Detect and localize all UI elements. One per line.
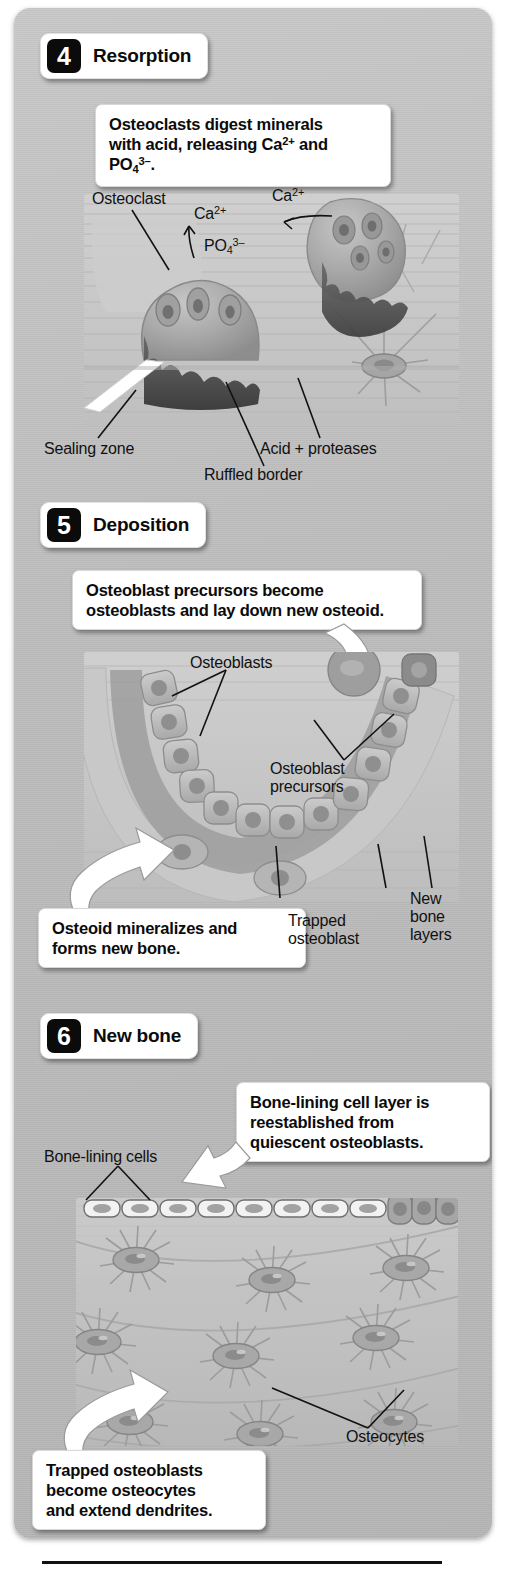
step-header-4: 4 Resorption	[40, 33, 208, 79]
label-calcium-right: Ca2+	[272, 186, 304, 205]
callout-osteoid-line2: forms new bone.	[52, 938, 292, 958]
label-phosphate: PO43–	[204, 236, 244, 256]
callout-trapped-line1: Trapped osteoblasts	[46, 1460, 252, 1480]
illustration-new-bone	[76, 1198, 458, 1446]
callout-osteoid-mineralizes: Osteoid mineralizes and forms new bone.	[38, 908, 306, 968]
step-title-5: Deposition	[93, 514, 189, 536]
label-osteoblast-precursors: Osteoblast precursors	[270, 760, 380, 796]
illustration-resorption	[84, 194, 459, 426]
label-sealing-zone: Sealing zone	[44, 440, 134, 458]
step-title-4: Resorption	[93, 45, 191, 67]
label-acid-proteases: Acid + proteases	[260, 440, 376, 458]
callout-osteoid-line1: Osteoid mineralizes and	[52, 918, 292, 938]
callout-new-bone-line3: quiescent osteoblasts.	[250, 1132, 476, 1152]
label-bone-lining-cells: Bone-lining cells	[44, 1148, 157, 1166]
callout-new-bone: Bone-lining cell layer is reestablished …	[236, 1082, 490, 1162]
label-calcium-left: Ca2+	[194, 204, 226, 223]
step-header-5: 5 Deposition	[40, 502, 206, 548]
callout-new-bone-line2: reestablished from	[250, 1112, 476, 1132]
label-osteoclast: Osteoclast	[92, 190, 166, 208]
callout-trapped-line2: become osteocytes	[46, 1480, 252, 1500]
label-ruffled-border: Ruffled border	[204, 466, 302, 484]
callout-trapped-line3: and extend dendrites.	[46, 1500, 252, 1520]
step-number-6: 6	[47, 1019, 81, 1053]
label-osteoblasts: Osteoblasts	[190, 654, 272, 672]
step-number-5: 5	[47, 508, 81, 542]
step-title-6: New bone	[93, 1025, 181, 1047]
step-header-6: 6 New bone	[40, 1013, 198, 1059]
label-new-bone-layers: New bone layers	[410, 890, 480, 944]
bottom-rule	[42, 1561, 442, 1564]
callout-resorption-line1: Osteoclasts digest minerals	[109, 114, 377, 134]
label-osteocytes: Osteocytes	[346, 1428, 424, 1446]
callout-resorption-line2: with acid, releasing Ca2+ and PO43–.	[109, 134, 377, 177]
label-trapped-osteoblast: Trapped osteoblast	[288, 912, 392, 948]
callout-deposition-line2: osteoblasts and lay down new osteoid.	[86, 600, 408, 620]
callout-new-bone-line1: Bone-lining cell layer is	[250, 1092, 476, 1112]
callout-deposition-line1: Osteoblast precursors become	[86, 580, 408, 600]
callout-resorption: Osteoclasts digest minerals with acid, r…	[95, 104, 391, 187]
step-number-4: 4	[47, 39, 81, 73]
figure-panel: 4 Resorption Osteoclasts digest minerals…	[14, 8, 492, 1538]
callout-deposition: Osteoblast precursors become osteoblasts…	[72, 570, 422, 630]
callout-trapped-osteoblasts: Trapped osteoblasts become osteocytes an…	[32, 1450, 266, 1530]
